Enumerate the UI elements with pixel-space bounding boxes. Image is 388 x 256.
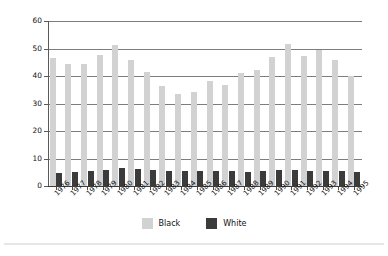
bar-black-1983: [159, 86, 165, 186]
bar-black-1976: [50, 58, 56, 186]
chart-figure: Rate per 100,000 0102030405060 197619771…: [0, 0, 388, 256]
chart-legend: BlackWhite: [0, 218, 388, 229]
y-axis-tick-label: 30: [16, 100, 42, 108]
gridline: [48, 159, 362, 160]
y-axis-tick-label: 40: [16, 72, 42, 80]
bar-black-1977: [65, 64, 71, 186]
bar-black-1979: [97, 55, 103, 186]
gridline: [48, 21, 362, 22]
bar-black-1993: [316, 50, 322, 186]
gridline: [48, 76, 362, 77]
bar-black-1994: [332, 60, 338, 186]
y-axis-tick-label: 0: [16, 182, 42, 190]
legend-item-black[interactable]: Black: [142, 218, 181, 229]
plot-area: [48, 21, 362, 187]
bar-black-1992: [301, 56, 307, 186]
bar-black-1978: [81, 64, 87, 186]
y-axis-tick-label: 20: [16, 127, 42, 135]
bar-black-1982: [144, 72, 150, 186]
bar-black-1988: [238, 73, 244, 186]
bar-black-1991: [285, 44, 291, 186]
bar-black-1985: [191, 92, 197, 186]
bar-black-1989: [254, 70, 260, 186]
y-axis-tick-label: 10: [16, 155, 42, 163]
y-axis-tick-label: 50: [16, 45, 42, 53]
bar-black-1981: [128, 60, 134, 187]
bar-black-1987: [222, 85, 228, 186]
bar-black-1986: [207, 81, 213, 186]
bar-black-1990: [269, 57, 275, 186]
legend-swatch-icon: [206, 218, 217, 229]
legend-item-white[interactable]: White: [206, 218, 246, 229]
y-axis-tick-label: 60: [16, 17, 42, 25]
legend-swatch-icon: [142, 218, 153, 229]
bar-black-1980: [112, 45, 118, 186]
gridline: [48, 104, 362, 105]
gridline: [48, 131, 362, 132]
footer-divider: [4, 243, 384, 245]
bar-black-1984: [175, 94, 181, 186]
bar-black-1995: [348, 76, 354, 186]
legend-label: White: [223, 218, 246, 229]
gridline: [48, 49, 362, 50]
legend-label: Black: [159, 218, 181, 229]
